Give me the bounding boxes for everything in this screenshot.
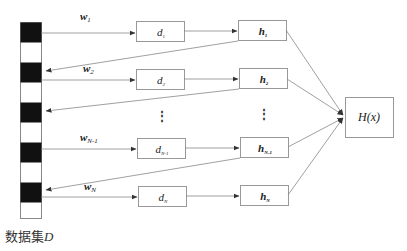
data-block <box>21 143 42 163</box>
weight-label-1: w1 <box>80 10 91 24</box>
weight-label-n-1: wN-1 <box>80 131 98 145</box>
learner-label-1: h1 <box>259 25 268 38</box>
learner-label-n-1: hN-1 <box>258 142 272 155</box>
weight-label-2: w2 <box>83 62 94 76</box>
arrow-feedback-1 <box>46 41 238 71</box>
dataset-column <box>21 23 42 219</box>
ellipsis-subsets: ⋮ <box>156 110 168 122</box>
dataset-caption: 数据集D <box>5 226 53 245</box>
data-block <box>21 63 42 83</box>
learner-label-2: h2 <box>260 73 269 86</box>
data-block <box>21 23 42 43</box>
ensemble-label: H(x) <box>358 110 380 125</box>
arrow-h2-ensemble <box>287 79 343 115</box>
data-block <box>21 103 42 123</box>
diagram-canvas <box>0 0 407 251</box>
arrow-hn-ensemble <box>288 118 343 195</box>
subset-label-1: d1 <box>157 26 165 39</box>
ellipsis-learners: ⋮ <box>258 108 270 120</box>
subset-label-n: dN <box>159 191 168 204</box>
arrow-feedback-2 <box>46 89 239 111</box>
arrow-feedback-n-1 <box>46 158 240 190</box>
data-block <box>21 183 42 203</box>
subset-label-2: d2 <box>157 74 165 87</box>
arrow-hn1-ensemble <box>288 118 343 147</box>
weight-label-n: wN <box>84 180 96 194</box>
arrows <box>41 30 343 197</box>
arrow-h1-ensemble <box>286 30 343 115</box>
learner-label-n: hN <box>260 190 270 203</box>
subset-label-n-1: dN-1 <box>156 143 169 156</box>
